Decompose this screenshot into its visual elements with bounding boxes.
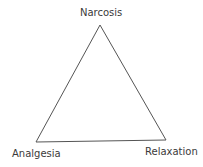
vertex-label-analgesia: Analgesia bbox=[12, 148, 61, 159]
triangle-shape bbox=[36, 25, 166, 142]
vertex-label-relaxation: Relaxation bbox=[145, 146, 198, 157]
triangle-diagram bbox=[0, 0, 203, 167]
vertex-label-narcosis: Narcosis bbox=[80, 7, 122, 18]
